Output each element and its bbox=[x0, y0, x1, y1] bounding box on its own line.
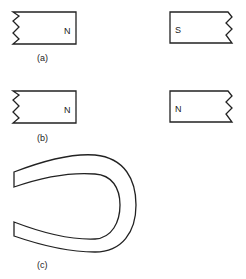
panel-c: (c) bbox=[14, 155, 136, 270]
pole-label-b-left: N bbox=[64, 105, 71, 115]
panel-a: N S (a) bbox=[13, 12, 232, 63]
pole-label-a-right: S bbox=[175, 25, 181, 35]
panel-label-b: (b) bbox=[37, 133, 48, 143]
pole-label-b-right: N bbox=[175, 104, 182, 114]
magnet-diagram: N S (a) N N (b) (c) bbox=[0, 0, 246, 279]
panel-label-c: (c) bbox=[37, 260, 48, 270]
panel-label-a: (a) bbox=[37, 53, 48, 63]
pole-label-a-left: N bbox=[64, 26, 71, 36]
panel-b: N N (b) bbox=[13, 91, 232, 143]
horseshoe-magnet bbox=[14, 155, 136, 252]
